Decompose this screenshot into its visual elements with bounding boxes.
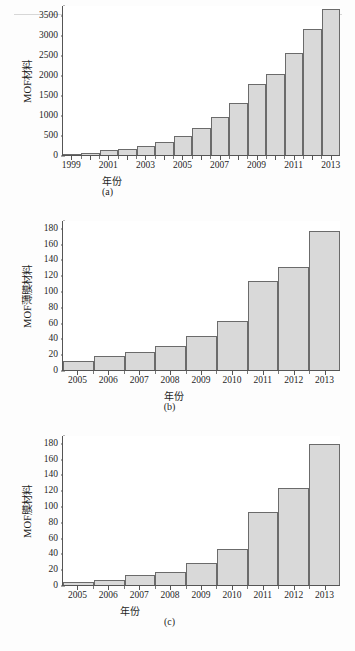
y-tick-label: 120 — [44, 487, 58, 497]
y-tick-label: 80 — [49, 518, 59, 528]
y-tick-label: 160 — [44, 455, 58, 465]
x-minor-tick-mark — [186, 586, 187, 589]
x-tick-label: 2013 — [315, 376, 334, 386]
plot-area-c: MOF膜材料 020406080100120140160180 20052006… — [0, 436, 355, 614]
x-tick-mark — [90, 156, 91, 160]
y-tick-label: 100 — [44, 502, 58, 512]
x-tick-label: 2009 — [247, 161, 266, 171]
x-minor-tick-mark — [229, 156, 230, 159]
bar — [63, 582, 94, 585]
x-tick-mark — [275, 156, 276, 160]
x-minor-tick-mark — [173, 156, 174, 159]
x-minor-tick-mark — [309, 586, 310, 589]
x-minor-tick-mark — [124, 586, 125, 589]
x-minor-tick-mark — [216, 371, 217, 374]
bar — [278, 488, 309, 585]
y-tick-label: 2000 — [39, 71, 58, 81]
x-tick-label: 2001 — [99, 161, 118, 171]
x-tick-label: 2012 — [284, 376, 303, 386]
chart-panel-a: MOF材料 0500100015002000250030003500 19992… — [0, 6, 355, 221]
y-tick-label: 1500 — [39, 91, 58, 101]
bar — [125, 575, 156, 585]
y-tick-label: 140 — [44, 256, 58, 266]
bar-series-a — [63, 6, 340, 155]
y-tick-label: 160 — [44, 240, 58, 250]
x-tick-label: 2005 — [173, 161, 192, 171]
bar — [211, 117, 229, 155]
x-tick-label: 2010 — [222, 376, 241, 386]
x-minor-tick-mark — [247, 156, 248, 159]
plot-frame-a — [62, 6, 340, 156]
x-tick-label: 2007 — [130, 376, 149, 386]
x-tick-labels-b: 200520062007200820092010201120122013 — [62, 371, 340, 389]
x-minor-tick-mark — [155, 371, 156, 374]
y-tick-label: 0 — [53, 581, 58, 591]
bar — [94, 356, 125, 370]
x-minor-tick-mark — [247, 586, 248, 589]
x-minor-tick-mark — [93, 586, 94, 589]
bar — [186, 563, 217, 585]
bar — [125, 352, 156, 370]
x-minor-tick-mark — [266, 156, 267, 159]
y-tick-label: 1000 — [39, 111, 58, 121]
y-tick-label: 60 — [49, 534, 59, 544]
bar — [186, 336, 217, 370]
x-tick-label: 2007 — [130, 591, 149, 601]
y-tick-label: 3000 — [39, 31, 58, 41]
bar — [217, 321, 248, 370]
x-tick-labels-a: 19992001200320052007200920112013 — [62, 156, 340, 174]
x-tick-label: 2010 — [222, 591, 241, 601]
x-tick-mark — [238, 156, 239, 160]
x-tick-label: 2013 — [321, 161, 340, 171]
x-tick-mark — [201, 156, 202, 160]
x-minor-tick-mark — [309, 371, 310, 374]
x-tick-label: 2008 — [161, 376, 180, 386]
y-tick-label: 2500 — [39, 51, 58, 61]
x-minor-tick-mark — [93, 371, 94, 374]
x-minor-tick-mark — [321, 156, 322, 159]
panel-caption-a: (a) — [0, 186, 285, 197]
bar — [303, 29, 321, 155]
x-tick-mark — [127, 156, 128, 160]
x-tick-label: 2005 — [68, 591, 87, 601]
x-tick-label: 2011 — [253, 376, 272, 386]
bar — [285, 53, 303, 155]
x-tick-label: 2009 — [192, 376, 211, 386]
figure-page: MOF材料 0500100015002000250030003500 19992… — [0, 0, 355, 651]
x-minor-tick-mark — [303, 156, 304, 159]
y-tick-label: 40 — [49, 550, 59, 560]
x-minor-tick-mark — [247, 371, 248, 374]
bar — [217, 549, 248, 585]
bar — [309, 231, 340, 370]
y-tick-label: 0 — [53, 151, 58, 161]
bar-series-b — [63, 221, 340, 370]
y-tick-labels-b: 020406080100120140160180 — [30, 221, 62, 371]
x-tick-label: 2008 — [161, 591, 180, 601]
x-minor-tick-mark — [136, 156, 137, 159]
y-tick-label: 20 — [49, 565, 59, 575]
y-tick-label: 0 — [53, 366, 58, 376]
y-tick-label: 140 — [44, 471, 58, 481]
y-tick-label: 40 — [49, 335, 59, 345]
x-minor-tick-mark — [81, 156, 82, 159]
bar — [137, 146, 155, 155]
bar — [155, 346, 186, 370]
y-tick-label: 20 — [49, 350, 59, 360]
x-tick-mark — [164, 156, 165, 160]
x-tick-label: 2005 — [68, 376, 87, 386]
bar — [248, 512, 279, 585]
bar — [278, 267, 309, 370]
bar — [192, 128, 210, 155]
x-tick-label: 2011 — [284, 161, 303, 171]
x-minor-tick-mark — [284, 156, 285, 159]
x-tick-label: 1999 — [62, 161, 81, 171]
y-tick-label: 80 — [49, 303, 59, 313]
x-tick-labels-c: 200520062007200820092010201120122013 — [62, 586, 340, 604]
bar — [81, 153, 99, 155]
y-tick-label: 100 — [44, 287, 58, 297]
x-minor-tick-mark — [216, 586, 217, 589]
bar — [248, 281, 279, 370]
bar — [63, 154, 81, 155]
y-tick-labels-a: 0500100015002000250030003500 — [30, 6, 62, 156]
panel-caption-b: (b) — [0, 401, 347, 412]
